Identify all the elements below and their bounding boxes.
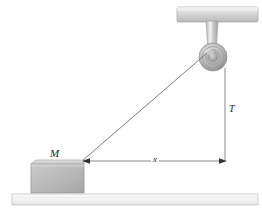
string-segment: [82, 53, 207, 161]
ceiling-beam: [177, 7, 258, 22]
label-tension-t: T: [229, 104, 235, 114]
label-mass-m: M: [50, 148, 59, 159]
block-mass-m: [31, 160, 84, 193]
label-distance-x: x: [151, 155, 159, 164]
ground-surface: [12, 194, 258, 205]
diagram-svg: [0, 0, 262, 220]
physics-diagram-canvas: M T x: [0, 0, 262, 220]
pulley-wheel: [199, 43, 227, 71]
